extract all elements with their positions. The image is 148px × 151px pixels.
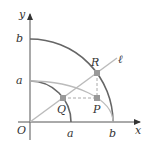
y-tick-a-label: a (16, 74, 23, 87)
point-p-marker (94, 95, 100, 101)
x-tick-a-label: a (67, 127, 74, 140)
line-l-label: ℓ (118, 53, 123, 66)
y-axis-label: y (18, 8, 26, 21)
point-q-marker (60, 95, 66, 101)
y-tick-b-label: b (16, 32, 23, 45)
x-tick-b-label: b (109, 127, 116, 140)
origin-label: O (17, 124, 26, 137)
point-q-label: Q (57, 103, 66, 116)
ellipse-arc (30, 81, 113, 122)
point-r-marker (94, 70, 100, 76)
outer-circle-arc (30, 39, 113, 122)
point-r-label: R (90, 56, 99, 69)
point-p-label: P (92, 103, 101, 116)
line-l (30, 58, 117, 122)
ellipse-construction-diagram: y x O b a a b R Q P ℓ (0, 0, 148, 151)
x-axis-label: x (135, 124, 142, 137)
